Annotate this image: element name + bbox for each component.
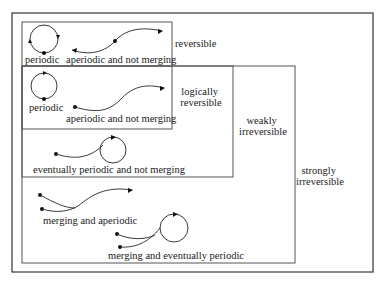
reversibility-diagram: periodic aperiodic and not merging rever… bbox=[0, 0, 386, 284]
arrow-icon bbox=[43, 71, 47, 75]
label-strongly-irreversible: strongly irreversible bbox=[296, 165, 344, 187]
label-periodic-1: periodic bbox=[25, 54, 60, 65]
strongly-irreversible-box bbox=[12, 13, 373, 272]
eventually-periodic-orbit bbox=[54, 135, 126, 163]
arrow-icon bbox=[128, 188, 133, 193]
merging-aperiodic-orbit bbox=[38, 188, 133, 211]
periodic-orbit-2 bbox=[31, 71, 57, 101]
periodic-orbit-1 bbox=[28, 25, 60, 55]
arrow-icon bbox=[158, 29, 163, 34]
label-merging-eventually-periodic: merging and eventually periodic bbox=[108, 250, 244, 261]
label-aperiodic-2: aperiodic and not merging bbox=[66, 113, 177, 124]
label-logically-reversible: logically reversible bbox=[180, 86, 222, 108]
arrow-icon bbox=[72, 48, 77, 53]
aperiodic-orbit-2 bbox=[73, 86, 165, 111]
arrow-icon bbox=[28, 39, 32, 43]
aperiodic-orbit-1 bbox=[72, 29, 163, 53]
label-weakly-irreversible: weakly irreversible bbox=[239, 115, 287, 137]
arrow-icon bbox=[160, 86, 165, 91]
label-eventually-periodic: eventually periodic and not merging bbox=[33, 164, 186, 175]
label-aperiodic-1: aperiodic and not merging bbox=[66, 54, 177, 65]
label-reversible: reversible bbox=[175, 38, 217, 49]
label-periodic-2: periodic bbox=[29, 102, 64, 113]
arrow-icon bbox=[56, 35, 60, 39]
label-merging-aperiodic: merging and aperiodic bbox=[43, 215, 138, 226]
